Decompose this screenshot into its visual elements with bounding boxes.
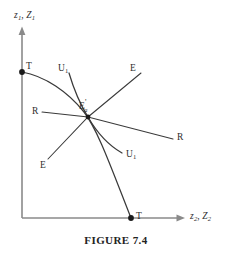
- marker-dot-t-bottom: [128, 215, 134, 221]
- label-t-top: T: [26, 62, 32, 72]
- label-equilibrium-subscript: a: [84, 106, 87, 113]
- label-e-bottom: E: [40, 161, 46, 171]
- x-axis-label-zcap-sub: 2: [208, 215, 211, 222]
- y-axis-arrowhead-icon: [19, 27, 26, 36]
- label-e-top: E: [130, 64, 136, 74]
- label-u1-bottom: U1: [126, 150, 136, 160]
- figure-caption: FIGURE 7.4: [0, 234, 232, 246]
- label-u1-bottom-sub: 1: [133, 153, 136, 160]
- y-axis-label-zcap-sub: 1: [32, 14, 35, 21]
- y-axis-label: z1, Z1: [14, 11, 35, 21]
- label-u1-top-base: U: [58, 63, 65, 73]
- label-u1-top: U1: [58, 64, 68, 74]
- y-axis-label-z-sub: 1: [18, 14, 21, 21]
- expansion-path-ee: [48, 73, 141, 159]
- marker-dot-t-top: [19, 69, 25, 75]
- x-axis-arrowhead-icon: [177, 215, 186, 222]
- label-u1-bottom-base: U: [126, 149, 133, 159]
- price-ratio-line-rr: [42, 112, 173, 139]
- marker-dot-equilibrium: [86, 115, 91, 120]
- label-equilibrium-point: E'a: [79, 102, 90, 112]
- label-t-bottom: T: [136, 212, 142, 222]
- figure-7-4: z1, Z1 z2, Z2 T T U1 U1 E E R R E'a FIGU…: [0, 0, 232, 255]
- indifference-curve-u1: [69, 73, 122, 153]
- label-r-left: R: [32, 107, 39, 117]
- label-r-right: R: [177, 133, 184, 143]
- x-axis-label: z2, Z2: [190, 212, 211, 222]
- x-axis-label-z-sub: 2: [194, 215, 197, 222]
- label-u1-top-sub: 1: [65, 67, 68, 74]
